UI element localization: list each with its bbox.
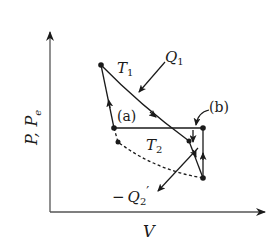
label-t1: T1 — [117, 59, 133, 78]
label-q1: Q1 — [165, 48, 184, 67]
y-axis-label: P,Pe — [22, 110, 43, 146]
b-pointer — [196, 110, 209, 125]
q2-arrow — [158, 148, 198, 191]
label-a: (a) — [117, 108, 136, 124]
point-t2-end — [187, 139, 192, 144]
axes — [50, 32, 265, 212]
branch-a-arrow — [109, 100, 111, 108]
point-lower-left — [116, 140, 121, 145]
pv-diagram: T1 Q1 (a) (b) T2 −Q2′ V P,Pe — [0, 0, 279, 249]
point-a — [111, 125, 117, 131]
point-right-top — [200, 125, 206, 131]
x-axis-label: V — [143, 222, 156, 241]
q1-arrow — [139, 62, 165, 92]
t2-to-bottom — [189, 141, 203, 178]
label-q2: −Q2′ — [112, 184, 149, 207]
diagram-svg: T1 Q1 (a) (b) T2 −Q2′ V P,Pe — [0, 0, 279, 249]
label-b: (b) — [209, 99, 229, 115]
state-points — [98, 62, 206, 181]
point-top — [98, 62, 104, 68]
label-t2: T2 — [146, 136, 162, 155]
point-bottom-right — [200, 175, 206, 181]
branch-a — [101, 65, 114, 128]
